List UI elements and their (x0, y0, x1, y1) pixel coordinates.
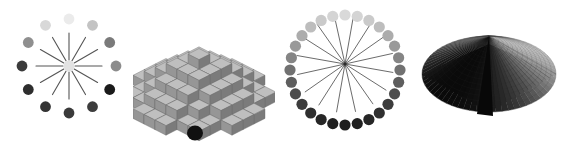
ring-dot (363, 15, 374, 26)
panel-cone-surface (416, 0, 562, 143)
ring-dot (339, 9, 350, 20)
radial-dot (17, 61, 28, 72)
ring-dot (352, 11, 363, 22)
panel-dot-ring (276, 0, 416, 143)
radial-dot (40, 101, 51, 112)
ring-dot (327, 118, 338, 129)
base-sphere (187, 126, 203, 141)
ring-dot (389, 41, 400, 52)
radial-dot (64, 108, 75, 119)
radial-dot (87, 20, 98, 31)
radial-dot (64, 14, 75, 25)
ring-dot (286, 52, 297, 63)
radial-dot (40, 20, 51, 31)
radial-dot (111, 61, 122, 72)
radial-dot (23, 37, 34, 48)
center-dot (64, 61, 75, 72)
ring-dot (316, 15, 327, 26)
ring-dot (374, 21, 385, 32)
ring-dot (374, 107, 385, 118)
ring-dot (363, 114, 374, 125)
ring-dot (305, 107, 316, 118)
ring-dot (382, 30, 393, 41)
radial-dot (104, 84, 115, 95)
radial-dot (23, 84, 34, 95)
ring-dot (296, 99, 307, 110)
cone-surface-canvas (416, 0, 562, 143)
ring-dot (393, 77, 404, 88)
ring-dot (296, 30, 307, 41)
ring-dot (286, 77, 297, 88)
panel-radial-dots (0, 0, 138, 143)
ring-dot (389, 88, 400, 99)
ring-dot (284, 64, 295, 75)
radial-dots-canvas (0, 0, 138, 143)
ring-dot (316, 114, 327, 125)
ring-dot (327, 11, 338, 22)
block-terrain-canvas (133, 0, 275, 143)
figure-strip (0, 0, 562, 143)
ring-dot (382, 99, 393, 110)
ring-dot (394, 64, 405, 75)
ring-dot (290, 41, 301, 52)
chord-hub-dot (343, 62, 346, 65)
ring-dot (290, 88, 301, 99)
radial-dot (104, 37, 115, 48)
radial-dot (87, 101, 98, 112)
ring-dot (305, 21, 316, 32)
ring-dot (339, 119, 350, 130)
ring-dot (352, 118, 363, 129)
panel-block-terrain (133, 0, 275, 143)
ring-dot (393, 52, 404, 63)
dot-ring-canvas (276, 0, 416, 143)
